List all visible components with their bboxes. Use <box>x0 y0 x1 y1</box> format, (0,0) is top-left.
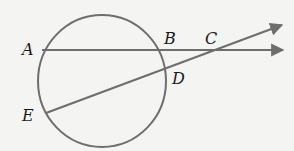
point-label-c: C <box>205 31 217 47</box>
geometry-figure <box>0 0 294 151</box>
point-label-e: E <box>22 108 34 124</box>
circle <box>38 15 166 147</box>
point-label-a: A <box>22 42 34 58</box>
point-label-d: D <box>172 71 185 87</box>
point-label-b: B <box>164 31 176 47</box>
diagram-canvas: A B C D E <box>0 0 294 151</box>
